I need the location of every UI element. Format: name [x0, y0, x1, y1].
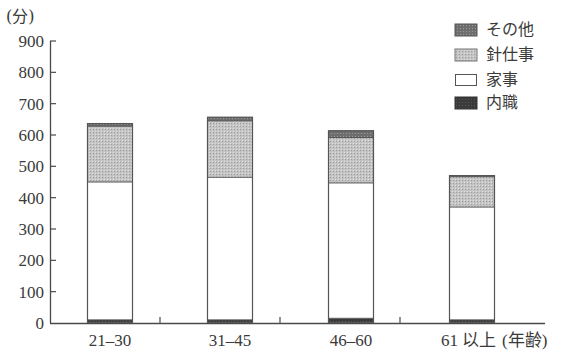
legend-item-housework: 家事 — [456, 70, 519, 89]
x-category-label: 61 以上 — [441, 331, 496, 350]
x-category-label: 31–45 — [209, 331, 252, 350]
y-axis-unit-label: (分) — [6, 7, 34, 26]
x-axis-suffix-label: (年齢) — [502, 331, 547, 350]
legend-label-piecework: 内職 — [486, 93, 518, 112]
bar-segment-needlework — [328, 138, 374, 183]
bar-segment-housework — [87, 182, 133, 320]
y-tick-label: 300 — [19, 220, 45, 239]
legend-swatch-needlework — [455, 49, 477, 61]
legend-item-other: その他 — [455, 20, 534, 39]
bar-segment-needlework — [207, 121, 253, 177]
legend-label-housework: 家事 — [486, 70, 518, 89]
y-tick-label: 800 — [19, 63, 45, 82]
y-tick-label: 900 — [19, 32, 45, 51]
bar-segment-needlework — [449, 177, 495, 207]
bar-4 — [449, 175, 495, 323]
bar-2 — [207, 117, 253, 323]
y-tick-label: 100 — [19, 283, 45, 302]
y-tick-label: 500 — [19, 157, 45, 176]
bar-segment-housework — [449, 207, 495, 320]
bar-1 — [87, 123, 133, 323]
y-tick-label: 700 — [19, 95, 45, 114]
bar-segment-needlework — [87, 126, 133, 182]
bar-3 — [328, 130, 374, 323]
legend-swatch-piecework — [455, 97, 477, 109]
legend-item-piecework: 内職 — [455, 93, 518, 112]
legend-item-needlework: 針仕事 — [455, 45, 534, 64]
x-category-label: 46–60 — [330, 331, 373, 350]
y-tick-label: 200 — [19, 251, 45, 270]
legend-label-needlework: 針仕事 — [486, 45, 534, 64]
bar-segment-housework — [328, 183, 374, 318]
legend-swatch-other — [455, 24, 477, 36]
y-tick-label: 0 — [36, 314, 45, 333]
legend: その他 針仕事 家事 内職 — [455, 20, 534, 112]
legend-label-other: その他 — [486, 20, 534, 39]
bar-segment-housework — [207, 177, 253, 320]
category-labels: 21–3031–4546–6061 以上(年齢) — [89, 331, 548, 350]
stacked-bar-chart: (分) 0100200300400500600700800900 21–3031… — [0, 0, 581, 356]
legend-swatch-housework — [456, 75, 477, 86]
x-category-label: 21–30 — [89, 331, 132, 350]
y-tick-label: 400 — [19, 189, 45, 208]
y-tick-label: 600 — [19, 126, 45, 145]
bars — [87, 117, 495, 323]
